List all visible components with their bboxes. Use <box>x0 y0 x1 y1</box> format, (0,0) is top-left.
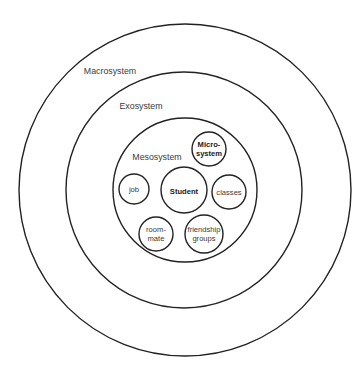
roommate-label: room- <box>146 225 166 234</box>
mesosystem-label: Mesosystem <box>132 152 181 162</box>
student-label: Student <box>170 187 199 196</box>
system-ring-labels: MacrosystemExosystemMesosystem <box>84 66 182 162</box>
friendship-groups-label: friendship <box>188 225 221 234</box>
microsystem-label: system <box>196 149 222 158</box>
node-student: Student <box>161 167 207 213</box>
exosystem-label: Exosystem <box>119 101 162 111</box>
friendship-groups-label: groups <box>192 234 215 243</box>
ecological-systems-diagram: MacrosystemExosystemMesosystem StudentMi… <box>0 0 363 375</box>
microsystem-nodes: StudentMicro-systemjobclassesroom-matefr… <box>119 132 246 253</box>
macrosystem-label: Macrosystem <box>84 66 136 76</box>
node-roommate: room-mate <box>139 217 173 251</box>
job-label: job <box>128 185 139 194</box>
node-job: job <box>119 174 149 204</box>
node-friendship-groups: friendshipgroups <box>185 215 223 253</box>
microsystem-label: Micro- <box>198 140 221 149</box>
classes-label: classes <box>216 188 242 197</box>
roommate-label: mate <box>148 234 165 243</box>
node-classes: classes <box>212 175 246 209</box>
node-microsystem: Micro-system <box>192 132 226 166</box>
